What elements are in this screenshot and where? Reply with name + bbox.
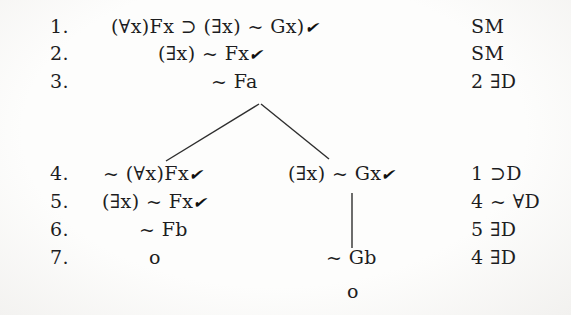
justification-line-7: 4 ∃D [471, 246, 516, 268]
branch-line-right [261, 104, 329, 159]
check-icon: ✔ [303, 18, 322, 36]
marker-text: o [149, 246, 161, 268]
branch-line-left [166, 104, 259, 161]
formula-line-3: ~ Fa [211, 70, 258, 92]
formula-text: ~ Fb [139, 218, 188, 240]
justification-line-2: SM [471, 42, 504, 64]
formula-text: (∃x) ~ Fx [102, 190, 193, 212]
open-branch-marker-left: o [149, 246, 161, 268]
check-icon: ✔ [248, 45, 267, 63]
formula-line-6: ~ Fb [139, 218, 188, 240]
line-number-7: 7. [50, 246, 69, 268]
open-branch-marker-right: o [347, 280, 358, 302]
formula-text: (∃x) ~ Gx [288, 162, 381, 184]
check-icon: ✔ [192, 193, 211, 211]
formula-line-2: (∃x) ~ Fx✔ [158, 42, 265, 64]
formula-line-4-left: ~ (∀x)Fx✔ [103, 162, 205, 184]
justification-line-4: 1 ⊃D [471, 162, 522, 184]
line-number-3: 3. [50, 70, 69, 92]
line-number-1: 1. [50, 15, 69, 37]
justification-line-6: 5 ∃D [471, 218, 516, 240]
formula-line-5: (∃x) ~ Fx✔ [102, 190, 209, 212]
formula-line-7-right: ~ Gb [326, 246, 377, 268]
formula-line-1: (∀x)Fx ⊃ (∃x) ~ Gx)✔ [111, 15, 320, 37]
line-number-6: 6. [50, 218, 69, 240]
line-number-4: 4. [50, 162, 69, 184]
formula-text: (∃x) ~ Fx [158, 42, 249, 64]
formula-text: (∀x)Fx ⊃ (∃x) ~ Gx) [111, 15, 305, 37]
justification-line-5: 4 ~ ∀D [471, 190, 540, 212]
formula-text: ~ (∀x)Fx [103, 162, 189, 184]
check-icon: ✔ [188, 165, 207, 183]
formula-text: ~ Gb [326, 246, 377, 268]
formula-line-4-right: (∃x) ~ Gx✔ [288, 162, 397, 184]
formula-text: ~ Fa [211, 70, 258, 92]
justification-line-1: SM [471, 15, 504, 37]
check-icon: ✔ [380, 165, 399, 183]
line-number-5: 5. [50, 190, 69, 212]
line-number-2: 2. [50, 42, 69, 64]
justification-line-3: 2 ∃D [471, 70, 516, 92]
proof-tree-page: 1. 2. 3. 4. 5. 6. 7. (∀x)Fx ⊃ (∃x) ~ Gx)… [0, 0, 571, 315]
